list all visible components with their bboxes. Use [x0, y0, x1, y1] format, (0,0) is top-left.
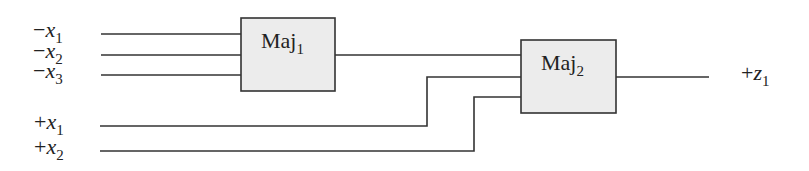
sign: − [33, 58, 45, 83]
var: x [46, 109, 56, 134]
maj1-label: Maj1 [261, 30, 304, 52]
subscript: 1 [296, 41, 304, 57]
wire-pos-x2 [100, 97, 521, 151]
subscript: 2 [576, 63, 584, 79]
output-label-z1: +z1 [741, 62, 769, 84]
gate-name: Maj [541, 50, 576, 75]
var: x [45, 58, 55, 83]
sign: + [741, 60, 753, 85]
var: x [46, 134, 56, 159]
maj2-label: Maj2 [541, 52, 584, 74]
input-label-neg-x3: −x3 [33, 60, 63, 82]
sign: + [34, 109, 46, 134]
sign: + [34, 134, 46, 159]
subscript: 2 [56, 147, 64, 163]
gate-name: Maj [261, 28, 296, 53]
input-label-pos-x1: +x1 [34, 111, 64, 133]
var: z [753, 60, 762, 85]
input-label-pos-x2: +x2 [34, 136, 64, 158]
subscript: 3 [55, 71, 63, 87]
circuit-wires [0, 0, 809, 171]
subscript: 1 [762, 73, 770, 89]
